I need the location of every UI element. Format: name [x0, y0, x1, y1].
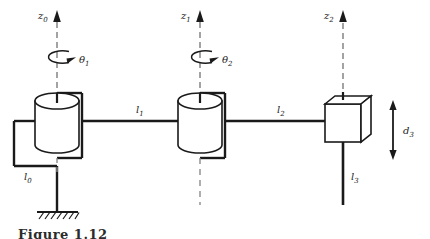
axis-label-z1-subscript: 1 [186, 16, 190, 24]
kinematic-diagram: z0 z1 z2 θ1 θ2 d3 l0 l1 [0, 0, 430, 239]
theta1-ellipse-arc [49, 51, 69, 63]
figure-caption: Figure 1.12 [18, 227, 108, 239]
joint-label-theta2-subscript: 2 [227, 60, 233, 68]
axis-z1-arrowhead [196, 10, 204, 22]
theta2-arrowhead [210, 57, 220, 63]
link-label-l2-subscript: 2 [279, 110, 285, 118]
link-label-l3: l3 [351, 171, 359, 185]
axis-label-z0: z0 [37, 10, 48, 24]
link-label-l1: l1 [136, 104, 144, 118]
figure-root: z0 z1 z2 θ1 θ2 d3 l0 l1 [0, 0, 430, 239]
axis-label-z0-subscript: 0 [43, 16, 48, 24]
joint-label-d3: d3 [403, 125, 414, 139]
rotation-arrow-theta2 [192, 51, 219, 64]
cube-front-face [325, 104, 361, 142]
link-label-l1-subscript: 1 [139, 110, 143, 118]
d3-arrowhead-up [389, 100, 396, 110]
ground-support [37, 212, 79, 219]
cube-right-face [361, 96, 371, 142]
joint2-cylinder [178, 93, 222, 153]
link-label-l3-subscript: 3 [354, 177, 359, 185]
joint-label-d3-subscript: 3 [409, 131, 414, 139]
rotation-arrow-theta1 [49, 51, 76, 64]
axis-z2-arrowhead [339, 10, 347, 22]
axis-label-z2-subscript: 2 [328, 16, 334, 24]
joint-label-theta1-subscript: 1 [85, 60, 89, 68]
joint1-cylinder [35, 93, 79, 153]
joint3-cube [325, 96, 371, 142]
axis-label-z1: z1 [180, 10, 191, 24]
axis-z2 [339, 10, 347, 99]
link-label-l0-subscript: 0 [27, 177, 32, 185]
prismatic-travel-arrow-d3 [389, 100, 396, 160]
joint-label-theta2: θ2 [222, 54, 233, 68]
link-label-l0: l0 [24, 171, 32, 185]
joint-label-theta1: θ1 [79, 54, 90, 68]
ground-hatch-marks [39, 212, 79, 219]
d3-arrowhead-down [389, 150, 396, 160]
axis-z0-arrowhead [53, 10, 61, 22]
theta1-arrowhead [67, 57, 77, 63]
axis-label-z2: z2 [323, 10, 334, 24]
link-label-l2: l2 [277, 104, 285, 118]
theta2-ellipse-arc [192, 51, 212, 63]
